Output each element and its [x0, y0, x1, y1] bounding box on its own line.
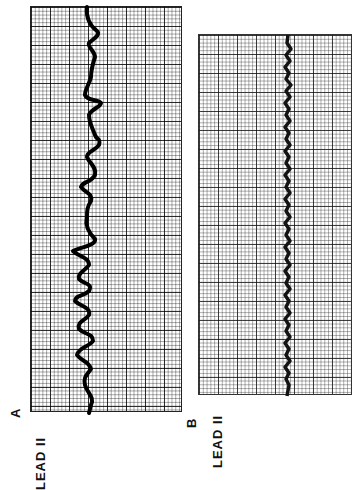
ecg-strip-b [198, 34, 352, 395]
lead-label-b: LEAD II [210, 415, 225, 468]
panel-label-a: A [8, 408, 23, 418]
panel-label-b: B [184, 418, 199, 428]
lead-label-a: LEAD II [33, 437, 48, 490]
ecg-trace-b [199, 35, 353, 396]
ecg-trace-a [31, 7, 183, 413]
ecg-strip-a [30, 6, 182, 412]
